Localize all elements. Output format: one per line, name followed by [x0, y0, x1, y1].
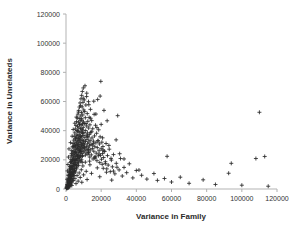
x-tick-label: 80000	[197, 195, 217, 202]
y-tick-label: 20000	[41, 156, 61, 163]
y-tick-label: 120000	[37, 11, 60, 18]
y-tick-label: 40000	[41, 127, 61, 134]
x-axis-title: Variance in Family	[136, 212, 206, 221]
y-axis-title: Variance in Unrelateds	[5, 58, 14, 144]
x-tick-label: 60000	[162, 195, 182, 202]
x-tick-label: 120000	[265, 195, 288, 202]
chart-background	[0, 0, 294, 227]
y-tick-label: 100000	[37, 40, 60, 47]
y-tick-label: 0	[56, 186, 60, 193]
x-tick-label: 20000	[91, 195, 111, 202]
scatter-chart: 020000400006000080000100000120000 020000…	[0, 0, 294, 227]
y-tick-label: 80000	[41, 69, 61, 76]
x-tick-label: 0	[64, 195, 68, 202]
x-tick-label: 100000	[230, 195, 253, 202]
chart-canvas: 020000400006000080000100000120000 020000…	[0, 0, 294, 227]
x-tick-label: 40000	[127, 195, 147, 202]
y-tick-label: 60000	[41, 98, 61, 105]
